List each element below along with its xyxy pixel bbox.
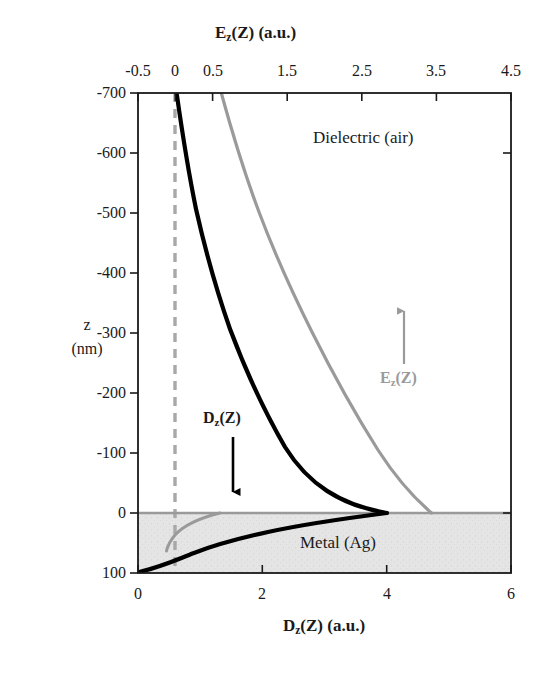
top-tick-label-5: 3.5 xyxy=(426,62,446,80)
dz-curve-label-rest: (Z) xyxy=(219,409,240,426)
bottom-tick-label-3: 6 xyxy=(507,585,515,603)
ez-curve-label-rest: (Z) xyxy=(396,369,417,386)
left-axis-title-line1: z xyxy=(58,316,116,334)
bottom-axis-title-main: D xyxy=(283,616,295,635)
bottom-tick-label-0: 0 xyxy=(134,585,142,603)
top-axis-ticks xyxy=(138,93,511,101)
ez-curve-label: Ez(Z) xyxy=(380,369,417,388)
dz-curve-label: Dz(Z) xyxy=(203,409,241,428)
top-tick-label-4: 2.5 xyxy=(352,62,372,80)
dz-curve-label-main: D xyxy=(203,409,215,426)
top-axis-title-main: E xyxy=(215,23,226,42)
top-tick-label-2: 0.5 xyxy=(203,62,223,80)
left-tick-label-3: -400 xyxy=(97,264,126,282)
top-tick-label-3: 1.5 xyxy=(277,62,297,80)
top-tick-label-1: 0 xyxy=(171,62,179,80)
dz-curve-dielectric xyxy=(177,93,387,513)
ez-curve-dielectric xyxy=(221,93,431,513)
left-axis-title-line2: (nm) xyxy=(58,340,116,358)
left-tick-label-5: -200 xyxy=(97,384,126,402)
top-tick-label-0: -0.5 xyxy=(125,62,150,80)
left-tick-label-0: -700 xyxy=(97,84,126,102)
ez-curve-label-main: E xyxy=(380,369,391,386)
left-tick-label-2: -500 xyxy=(97,204,126,222)
figure-container: Ez(Z) (a.u.) -0.5 0 0.5 1.5 2.5 3.5 4.5 … xyxy=(0,0,544,680)
top-axis-title-rest: (Z) (a.u.) xyxy=(231,23,296,42)
left-tick-label-7: 0 xyxy=(118,504,126,522)
plot-frame xyxy=(138,93,511,573)
top-axis-title: Ez(Z) (a.u.) xyxy=(215,23,296,44)
dielectric-region-label: Dielectric (air) xyxy=(313,128,414,148)
left-tick-label-8: 100 xyxy=(102,564,126,582)
bottom-tick-label-2: 4 xyxy=(383,585,391,603)
bottom-axis-title: Dz(Z) (a.u.) xyxy=(283,616,365,637)
bottom-axis-title-rest: (Z) (a.u.) xyxy=(300,616,365,635)
left-tick-label-6: -100 xyxy=(97,444,126,462)
top-tick-label-6: 4.5 xyxy=(501,62,521,80)
metal-region-label: Metal (Ag) xyxy=(300,533,376,553)
left-axis-ticks xyxy=(130,93,138,573)
left-tick-label-1: -600 xyxy=(97,144,126,162)
right-axis-ticks xyxy=(503,153,511,513)
bottom-tick-label-1: 2 xyxy=(258,585,266,603)
